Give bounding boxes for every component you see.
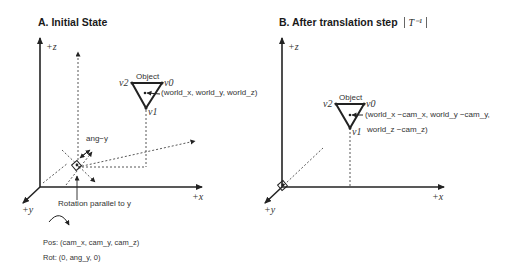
panel-a-vertex-v2: v2 [119,77,128,88]
panel-a-dashed-guides [43,52,195,185]
translation-step-symbol: T⁻¹ [404,17,428,28]
panel-b-dashed-guides [284,128,350,187]
rotation-note: Rotation parallel to y [58,199,131,208]
diagram-canvas [0,0,508,277]
panel-a-vertex-v1: v1 [148,106,157,117]
panel-b-x-axis-label: +x [432,191,443,202]
panel-a-z-axis-label: +z [46,41,57,52]
panel-a-title: A. Initial State [38,16,107,28]
panel-b-object-position-line2: world_z −cam_z) [367,125,428,134]
panel-b-vertex-v1: v1 [352,126,361,137]
panel-a-x-axis-label: +x [192,191,203,202]
panel-a-axes [23,38,202,203]
panel-b-vertex-v0: v0 [366,98,375,109]
panel-b-object-position-line1: (world_x −cam_x, world_y −cam_y, [365,110,490,119]
panel-b-title-text: B. After translation step [279,16,398,28]
camera-rotation: Rot: (0, ang_y, 0) [43,253,100,262]
panel-b-z-axis-label: +z [288,41,299,52]
panel-b-vertex-v2: v2 [323,98,332,109]
camera-angle-label: ang−y [86,134,108,143]
panel-a-vertex-v0: v0 [164,77,173,88]
panel-b-title: B. After translation step T⁻¹ [279,16,427,28]
panel-b-object-label: Object [339,93,362,102]
camera-position: Pos: (cam_x, cam_y, cam_z) [43,238,139,247]
panel-a-object-position: (world_x, world_y, world_z) [161,88,257,97]
panel-a-y-axis-label: +y [22,204,33,215]
panel-b-y-axis-label: +y [264,204,275,215]
panel-a-object-triangle [131,82,164,110]
panel-a-object-label: Object [136,72,159,81]
